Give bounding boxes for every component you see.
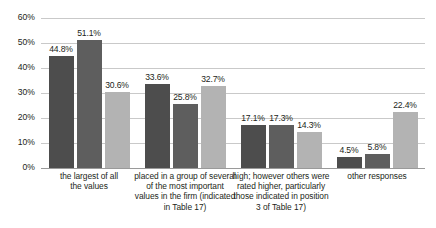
bar (105, 92, 130, 169)
bar-value-label: 14.3% (291, 121, 328, 130)
bar-value-label: 30.6% (99, 81, 136, 90)
y-axis-tick-label: 40% (2, 63, 35, 72)
bar (337, 157, 362, 168)
gridline (41, 18, 425, 19)
bar (393, 112, 418, 168)
x-axis-label-line: those indicated in position (225, 191, 337, 201)
bar (365, 154, 390, 169)
bar-value-label: 25.8% (167, 93, 204, 102)
bar-value-label: 5.8% (359, 143, 396, 152)
y-axis-tick-label: 30% (2, 88, 35, 97)
x-axis-baseline (41, 168, 425, 169)
x-axis-label-line: rated higher, particularly (225, 181, 337, 191)
bar-value-label: 51.1% (71, 29, 108, 38)
bar-value-label: 44.8% (43, 45, 80, 54)
y-axis-tick-label: 20% (2, 113, 35, 122)
x-axis-categories: the largest of allthe valuesplaced in a … (41, 171, 425, 227)
x-axis-label-line: 3 of Table 17) (225, 202, 337, 212)
plot-area: 44.8%51.1%30.6%33.6%25.8%32.7%17.1%17.3%… (41, 18, 425, 168)
y-axis-tick-label: 0% (2, 163, 35, 172)
bar-value-label: 22.4% (387, 101, 424, 110)
bar (173, 104, 198, 169)
x-axis-label-line: other responses (321, 171, 433, 181)
y-axis-tick-label: 10% (2, 138, 35, 147)
bar (49, 56, 74, 168)
bar (77, 40, 102, 168)
bar (201, 86, 226, 168)
y-axis-tick-label: 50% (2, 38, 35, 47)
bar (269, 125, 294, 168)
bar-value-label: 32.7% (195, 75, 232, 84)
bar-chart: 0%10%20%30%40%50%60% 44.8%51.1%30.6%33.6… (0, 0, 436, 228)
bar-value-label: 33.6% (139, 73, 176, 82)
bar (241, 125, 266, 168)
bar (297, 132, 322, 168)
x-axis-category-label: other responses (321, 171, 433, 181)
y-axis-tick-label: 60% (2, 13, 35, 22)
